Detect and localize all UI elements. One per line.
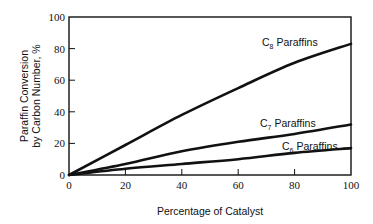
x-tick-label: 40	[176, 179, 188, 191]
x-axis-title: Percentage of Catalyst	[157, 205, 263, 217]
y-axis-ticks: 020406080100	[49, 11, 76, 181]
y-axis-title-line2: by Carbon Number, %	[30, 44, 42, 147]
x-tick-label: 100	[343, 179, 360, 191]
x-tick-label: 80	[289, 179, 301, 191]
line-chart: 020406080100 020406080100 C8 ParaffinsC7…	[0, 0, 373, 224]
series-label-c8: C8 Paraffins	[262, 36, 318, 50]
x-tick-label: 0	[66, 179, 72, 191]
series-line-c8	[69, 44, 351, 175]
y-tick-label: 80	[54, 43, 66, 55]
series-label-c6: C6 Paraffins	[282, 140, 338, 154]
y-axis-title: Paraffin Conversion by Carbon Number, %	[18, 44, 42, 147]
x-tick-label: 20	[120, 179, 132, 191]
series-lines	[69, 44, 351, 175]
y-tick-label: 20	[54, 137, 66, 149]
x-axis-ticks: 020406080100	[66, 169, 360, 191]
x-tick-label: 60	[233, 179, 245, 191]
y-tick-label: 60	[54, 74, 66, 86]
series-label-c7: C7 Paraffins	[260, 117, 316, 131]
y-tick-label: 100	[49, 11, 66, 23]
y-tick-label: 40	[54, 106, 66, 118]
y-axis-title-line1: Paraffin Conversion	[18, 50, 30, 142]
y-tick-label: 0	[60, 169, 66, 181]
